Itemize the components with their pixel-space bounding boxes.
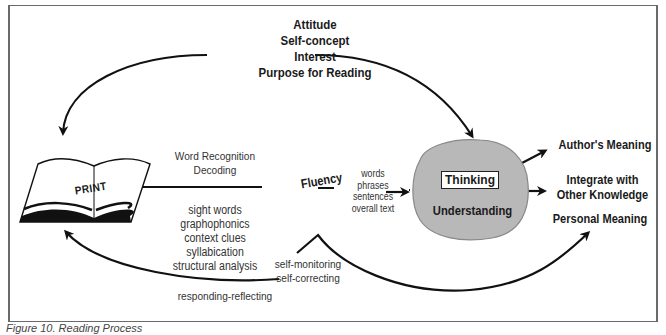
responding-reflecting-label: responding-reflecting xyxy=(159,290,291,304)
skill-item: sight words xyxy=(140,203,290,217)
unit-item: phrases xyxy=(341,180,404,192)
text-units-list: words phrases sentences overall text xyxy=(341,168,404,214)
motivation-self-concept: Self-concept xyxy=(213,33,417,49)
word-recognition-text: Word Recognition xyxy=(149,149,281,163)
cognition-blob xyxy=(413,140,528,240)
thinking-label: Thinking xyxy=(441,171,499,189)
understanding-label: Understanding xyxy=(430,204,516,219)
unit-item: words xyxy=(341,168,404,180)
integrate-line: Integrate with xyxy=(549,172,655,187)
motivation-attitude: Attitude xyxy=(213,17,417,33)
skill-item: graphophonics xyxy=(140,217,290,231)
arrow-motivation-to-print xyxy=(63,55,207,133)
motivation-interest: Interest xyxy=(213,49,417,65)
self-monitoring-text: self-monitoring xyxy=(255,257,361,271)
decoding-text: Decoding xyxy=(149,163,281,177)
word-recognition-label: Word Recognition Decoding xyxy=(149,149,281,177)
integrate-knowledge-label: Integrate with Other Knowledge xyxy=(549,172,655,202)
authors-meaning-label: Author's Meaning xyxy=(558,137,652,153)
skill-item: context clues xyxy=(140,231,290,245)
self-correcting-text: self-correcting xyxy=(255,271,361,285)
figure-caption: Figure 10. Reading Process xyxy=(6,322,142,335)
motivation-factors: Attitude Self-concept Interest Purpose f… xyxy=(213,17,417,81)
self-monitoring-label: self-monitoring self-correcting xyxy=(255,257,361,285)
integrate-line: Other Knowledge xyxy=(549,187,655,202)
motivation-purpose: Purpose for Reading xyxy=(213,65,417,81)
unit-item: sentences xyxy=(341,191,404,203)
arrow-to-authors-meaning xyxy=(522,151,545,163)
unit-item: overall text xyxy=(341,203,404,215)
personal-meaning-label: Personal Meaning xyxy=(545,211,656,227)
